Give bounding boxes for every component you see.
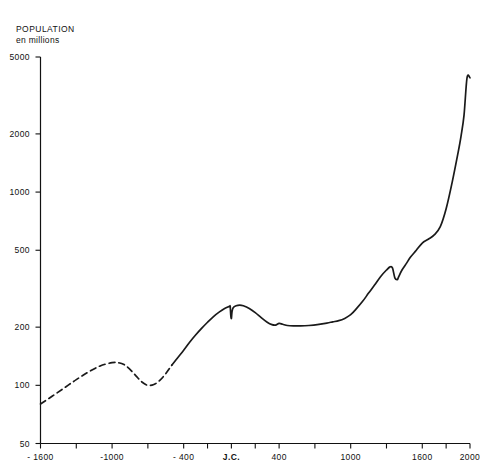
series-line-1 <box>172 75 470 365</box>
y-tick-label: 1000 <box>0 187 30 197</box>
x-tick-label: - 1600 <box>11 452 71 462</box>
population-chart: POPULATION en millions 50002000100050020… <box>0 0 492 473</box>
data-series-layer <box>41 75 471 404</box>
chart-plot-area <box>0 0 492 473</box>
y-tick-label: 50 <box>0 439 30 449</box>
x-tick-label: 1000 <box>321 452 381 462</box>
x-tick-label: -1000 <box>82 452 142 462</box>
y-tick-label: 5000 <box>0 52 30 62</box>
x-tick-label: 400 <box>249 452 309 462</box>
series-line-0 <box>41 362 172 404</box>
y-tick-label: 200 <box>0 322 30 332</box>
y-tick-label: 2000 <box>0 129 30 139</box>
y-axis-ticks <box>36 57 41 444</box>
y-tick-label: 500 <box>0 245 30 255</box>
axis-lines <box>41 57 471 444</box>
x-axis-ticks <box>41 444 471 449</box>
x-tick-label: 2000 <box>440 452 492 462</box>
y-tick-label: 100 <box>0 380 30 390</box>
